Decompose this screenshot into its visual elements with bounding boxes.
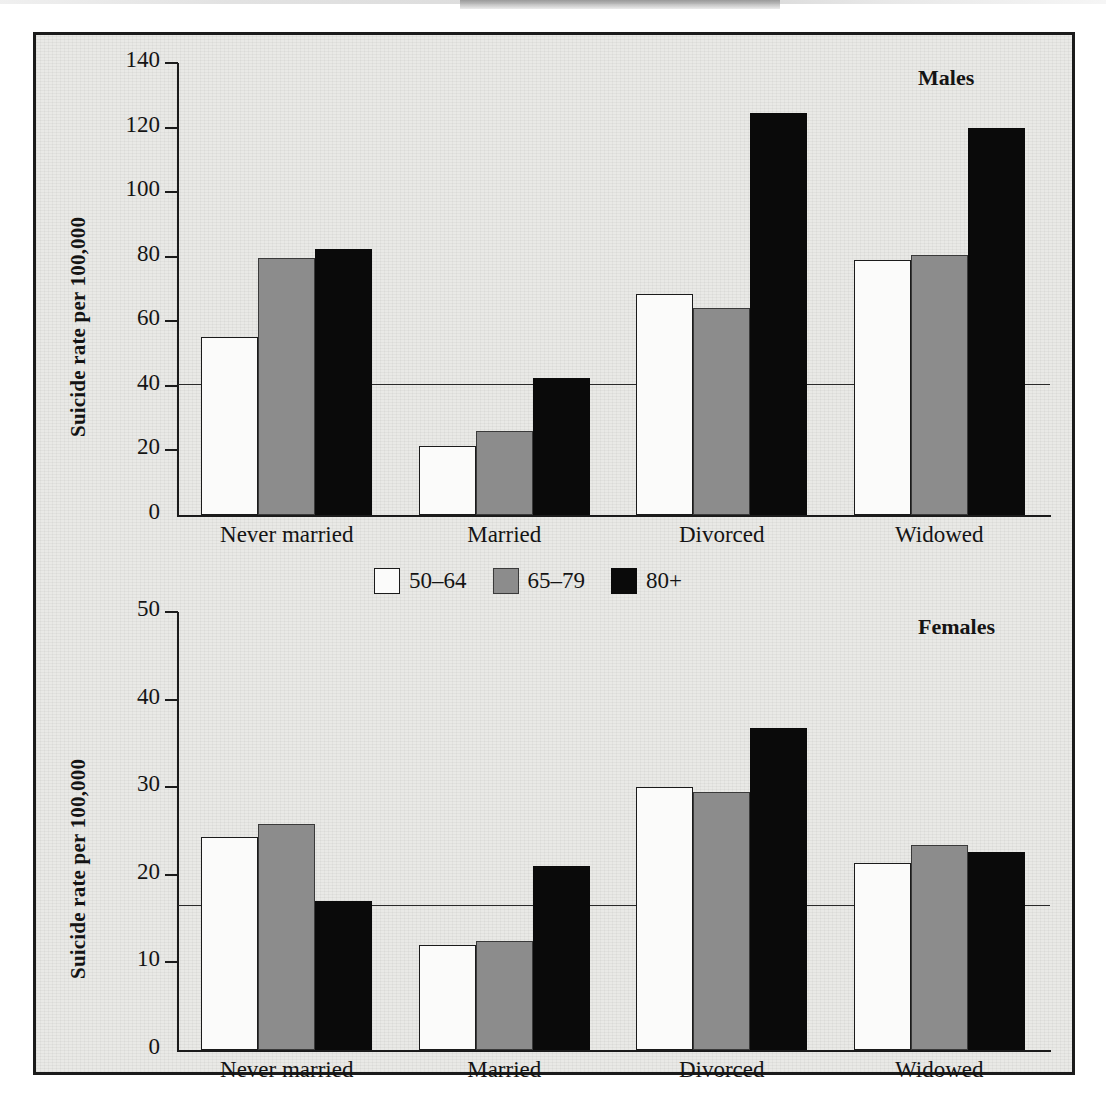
legend: 50–64 65–79 80+	[374, 568, 682, 594]
y-axis-line	[177, 612, 179, 1050]
category-label-never-married: Never married	[178, 522, 396, 548]
y-tick-label: 40	[82, 370, 160, 396]
y-tick-label: 50	[82, 596, 160, 622]
bar-widowed-5064	[854, 260, 911, 515]
legend-label-50-64: 50–64	[409, 568, 467, 594]
bar-married-6579	[476, 941, 533, 1050]
y-tick-mark	[165, 449, 178, 451]
y-tick-label: 20	[82, 434, 160, 460]
y-tick-label: 10	[82, 946, 160, 972]
panel-title-females: Females	[918, 614, 995, 640]
bar-married-6579	[476, 431, 533, 515]
bar-widowed-80+	[968, 128, 1025, 515]
y-tick-label: 0	[82, 499, 160, 525]
legend-label-65-79: 65–79	[528, 568, 586, 594]
legend-item-50-64: 50–64	[374, 568, 467, 594]
category-label-widowed: Widowed	[831, 522, 1049, 548]
y-tick-mark	[165, 256, 178, 258]
bar-divorced-80+	[750, 113, 807, 515]
legend-item-80-plus: 80+	[611, 568, 682, 594]
bar-never-married-80+	[315, 901, 372, 1050]
bar-widowed-6579	[911, 255, 968, 515]
category-label-never-married: Never married	[178, 1057, 396, 1083]
bar-widowed-6579	[911, 845, 968, 1050]
legend-item-65-79: 65–79	[493, 568, 586, 594]
bar-married-5064	[419, 446, 476, 515]
y-tick-label: 60	[82, 305, 160, 331]
category-label-widowed: Widowed	[831, 1057, 1049, 1083]
y-tick-mark	[165, 127, 178, 129]
bar-never-married-5064	[201, 337, 258, 515]
bar-divorced-6579	[693, 792, 750, 1050]
x-axis-line	[177, 1050, 1051, 1052]
bar-divorced-5064	[636, 294, 693, 515]
y-tick-label: 140	[82, 47, 160, 73]
y-tick-mark	[165, 699, 178, 701]
y-tick-label: 0	[82, 1034, 160, 1060]
bar-married-5064	[419, 945, 476, 1050]
legend-swatch-black-icon	[611, 568, 637, 594]
scan-top-smudge	[460, 0, 780, 9]
legend-label-80-plus: 80+	[646, 568, 682, 594]
y-tick-label: 80	[82, 241, 160, 267]
bar-never-married-6579	[258, 824, 315, 1050]
y-tick-mark	[165, 611, 178, 613]
y-tick-label: 120	[82, 112, 160, 138]
y-tick-label: 30	[82, 771, 160, 797]
y-tick-mark	[165, 874, 178, 876]
bar-divorced-80+	[750, 728, 807, 1050]
figure-frame: 020406080100120140Suicide rate per 100,0…	[33, 32, 1075, 1075]
y-axis-line	[177, 63, 179, 515]
bar-never-married-80+	[315, 249, 372, 515]
chart-panel-females: 01020304050Suicide rate per 100,000Femal…	[36, 555, 1072, 1070]
bar-never-married-5064	[201, 837, 258, 1050]
bar-divorced-6579	[693, 308, 750, 515]
y-tick-label: 20	[82, 859, 160, 885]
panel-title-males: Males	[918, 65, 974, 91]
category-label-divorced: Divorced	[613, 522, 831, 548]
bar-married-80+	[533, 378, 590, 515]
y-axis-title: Suicide rate per 100,000	[66, 217, 91, 437]
y-tick-mark	[165, 62, 178, 64]
bar-married-80+	[533, 866, 590, 1050]
legend-swatch-gray-icon	[493, 568, 519, 594]
bar-widowed-5064	[854, 863, 911, 1050]
y-tick-mark	[165, 961, 178, 963]
y-axis-title: Suicide rate per 100,000	[66, 759, 91, 979]
legend-swatch-white-icon	[374, 568, 400, 594]
y-tick-label: 40	[82, 684, 160, 710]
bar-divorced-5064	[636, 787, 693, 1050]
bar-widowed-80+	[968, 852, 1025, 1050]
y-tick-mark	[165, 786, 178, 788]
y-tick-mark	[165, 385, 178, 387]
category-label-married: Married	[396, 1057, 614, 1083]
y-tick-mark	[165, 191, 178, 193]
category-label-divorced: Divorced	[613, 1057, 831, 1083]
category-label-married: Married	[396, 522, 614, 548]
y-tick-mark	[165, 320, 178, 322]
bar-never-married-6579	[258, 258, 315, 515]
x-axis-line	[177, 515, 1051, 517]
chart-panel-males: 020406080100120140Suicide rate per 100,0…	[36, 35, 1072, 555]
y-tick-label: 100	[82, 176, 160, 202]
